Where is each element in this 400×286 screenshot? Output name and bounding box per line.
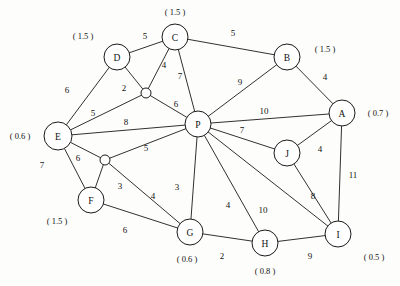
edge-weight-A-I: 11 (349, 170, 358, 180)
node-label-J: J (285, 149, 289, 159)
graph-node-E[interactable]: E (44, 122, 72, 150)
edge-weight-E-P: 8 (124, 117, 129, 127)
node-annotation-A: ( 0.7 ) (368, 108, 389, 118)
node-annotation-B: ( 1.5 ) (315, 44, 336, 54)
graph-node-J[interactable]: J (274, 140, 300, 166)
graph-node-C[interactable]: C (162, 24, 188, 50)
edge-weight-G-H: 2 (220, 251, 225, 261)
graph-edge-D-C (129, 41, 163, 53)
graph-node-P[interactable]: P (185, 111, 211, 137)
graph-edge-j2-F (95, 164, 103, 188)
node-label-E: E (55, 132, 61, 142)
node-label-D: D (114, 53, 121, 63)
edge-weight-P-j2: 5 (144, 143, 149, 153)
graph-edge-A-I (338, 126, 341, 222)
edge-weight-C-P: 7 (178, 71, 183, 81)
edges-layer (64, 39, 341, 241)
node-annotation-D: ( 1.5 ) (73, 31, 94, 41)
node-annotation-H: ( 0.8 ) (255, 266, 276, 276)
graph-edge-P-A (211, 114, 330, 123)
graph-edge-E-P (72, 125, 186, 135)
graph-edge-P-G (191, 137, 197, 220)
edge-weight-P-A: 10 (260, 106, 270, 116)
edge-weight-B-A: 4 (323, 72, 328, 82)
node-label-H: H (262, 239, 269, 249)
graph-edge-P-I (208, 132, 328, 226)
graph-edge-B-A (296, 66, 333, 104)
graph-edge-J-A (297, 120, 331, 145)
graph-edge-P-H (204, 135, 259, 232)
edge-weight-P-J: 7 (240, 125, 245, 135)
graph-junction-j2[interactable] (100, 155, 110, 165)
node-label-B: B (284, 53, 290, 63)
graph-edge-E-j1 (70, 95, 141, 130)
graph-node-D[interactable]: D (104, 44, 130, 70)
graph-edge-F-G (103, 204, 178, 228)
node-annotation-G: ( 0.6 ) (177, 254, 198, 264)
edge-weight-P-I: 10 (259, 205, 269, 215)
graph-node-A[interactable]: A (329, 100, 355, 126)
edge-weight-D-E: 6 (65, 85, 70, 95)
graph-node-F[interactable]: F (78, 187, 104, 213)
edge-weight-P-H: 4 (226, 200, 231, 210)
graph-edge-j1-P (150, 95, 187, 117)
edge-weight-F-G: 6 (123, 225, 128, 235)
edge-weight-C-B: 5 (231, 28, 236, 38)
graph-edge-D-j1 (125, 67, 143, 89)
edge-weight-H-I: 9 (308, 251, 313, 261)
graph-node-G[interactable]: G (177, 219, 203, 245)
edge-weight-E-F: 6 (76, 153, 81, 163)
edge-weight-B-P: 9 (238, 77, 243, 87)
graph-junction-j1[interactable] (141, 88, 151, 98)
graph-canvas: ABCDEFGHIJP 5524794658676107534103462948… (0, 0, 400, 286)
graph-edge-G-H (203, 234, 253, 241)
node-label-C: C (172, 33, 178, 43)
node-label-G: G (187, 228, 194, 238)
node-label-F: F (88, 196, 93, 206)
edge-weight-D-j1: 2 (122, 83, 127, 93)
nodes-layer: ABCDEFGHIJP (44, 24, 355, 256)
graph-node-I[interactable]: I (325, 221, 351, 247)
graph-edge-H-I (278, 236, 326, 242)
graph-edge-D-E (66, 67, 109, 125)
node-annotation-C: ( 1.5 ) (165, 7, 186, 17)
edge-weight-J-A: 4 (318, 144, 323, 154)
node-label-A: A (339, 109, 346, 119)
edge-weight-j2-G: 4 (151, 191, 156, 201)
edge-weight-j1-P: 6 (174, 99, 179, 109)
edge-weight-E-j2: 7 (40, 160, 45, 170)
graph-edge-C-B (188, 39, 275, 55)
edge-weight-J-I: 8 (311, 191, 316, 201)
edge-weight-P-G: 3 (175, 182, 180, 192)
edge-weight-j2-F: 3 (118, 181, 123, 191)
edge-weight-E-j1: 5 (91, 108, 96, 118)
graph-edge-E-F (64, 148, 85, 189)
network-graph-svg: ABCDEFGHIJP 5524794658676107534103462948… (0, 0, 400, 286)
node-label-I: I (336, 230, 339, 240)
graph-node-H[interactable]: H (252, 230, 278, 256)
edge-weight-C-j1: 4 (162, 60, 167, 70)
edge-weight-D-C: 5 (143, 31, 148, 41)
node-annotation-E: ( 0.6 ) (10, 131, 31, 141)
node-annotation-I: ( 0.5 ) (364, 252, 385, 262)
graph-edge-j2-G (109, 163, 181, 224)
graph-node-B[interactable]: B (274, 44, 300, 70)
node-annotation-F: ( 1.5 ) (47, 216, 68, 226)
node-label-P: P (195, 120, 200, 130)
